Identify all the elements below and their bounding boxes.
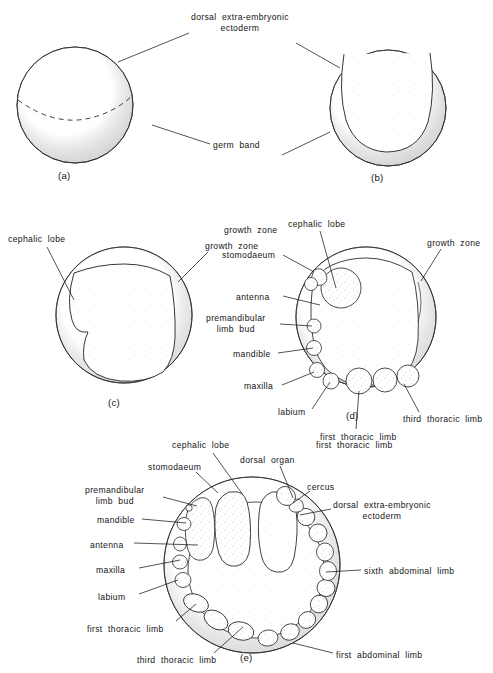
label-line: first thoracic limb bbox=[87, 624, 164, 635]
cephalic-lobe-e bbox=[215, 492, 251, 567]
leader-panel-d-stomodaeum bbox=[283, 255, 314, 272]
label-panel-e-third-thoracic-limb: third thoracic limb bbox=[137, 655, 216, 666]
label-line: antenna bbox=[90, 540, 124, 551]
first-thoracic-limb-d bbox=[346, 368, 372, 394]
seventh-abdominal-limb-e bbox=[317, 543, 334, 561]
label-line: growth zone bbox=[224, 225, 277, 236]
label-line: maxilla bbox=[96, 565, 125, 576]
mandible-d bbox=[307, 341, 322, 356]
label-line: growth zone bbox=[427, 238, 480, 249]
label-line: labium bbox=[278, 407, 305, 418]
panel-a-drawing bbox=[17, 47, 133, 163]
label-line: maxilla bbox=[244, 381, 273, 392]
label-panel-d-growth-zone: growth zone bbox=[427, 238, 480, 249]
label-line: limb bud bbox=[85, 496, 145, 507]
leader-panel-b-dorsal-extra-embryonic-ectoderm-leader-b bbox=[296, 43, 340, 68]
leader-panel-b-germ-band-leader-b bbox=[282, 132, 330, 155]
cephalic-lobe-d bbox=[321, 268, 361, 308]
label-panel-d-labium: labium bbox=[278, 407, 305, 418]
label-line: first abdominal limb bbox=[336, 650, 423, 661]
panel-b-drawing bbox=[330, 50, 446, 166]
label-panel-d-premandibular-limb-bud: premandibularlimb bud bbox=[206, 313, 266, 334]
label-line: premandibular bbox=[85, 485, 145, 496]
label-line: cephalic lobe bbox=[288, 219, 345, 230]
label-line: dorsal organ bbox=[240, 455, 295, 466]
label-line: germ band bbox=[213, 140, 260, 151]
label-line: first thoracic limb bbox=[316, 440, 393, 451]
label-panel-d-antenna: antenna bbox=[236, 292, 270, 303]
label-line: ectoderm bbox=[333, 511, 431, 522]
label-line: mandible bbox=[97, 515, 135, 526]
leader-panel-a-germ-band bbox=[152, 125, 210, 144]
label-panel-d-cephalic-lobe: cephalic lobe bbox=[288, 219, 345, 230]
label-line: premandibular bbox=[206, 313, 266, 324]
leader-panel-e-first-abdominal-limb bbox=[293, 643, 333, 653]
label-panel-e-first-thoracic-limb: first thoracic limb bbox=[87, 624, 164, 635]
panel-id-b: (b) bbox=[371, 172, 383, 183]
label-line: third thoracic limb bbox=[137, 655, 216, 666]
premandibular-limb-bud-e bbox=[186, 505, 192, 511]
label-line: ectoderm bbox=[191, 23, 289, 34]
label-panel-e-cercus: cercus bbox=[307, 482, 334, 493]
panel-id-c: (c) bbox=[108, 397, 120, 408]
label-panel-d-mandible: mandible bbox=[233, 349, 271, 360]
panel-d-drawing bbox=[296, 247, 436, 394]
label-line: cercus bbox=[307, 482, 334, 493]
label-panel-d-stomodaeum: stomodaeum bbox=[222, 250, 275, 261]
label-panel-d-growth-zone-left: growth zone bbox=[224, 225, 277, 236]
label-panel-e-stomodaeum: stomodaeum bbox=[148, 462, 201, 473]
label-panel-d-maxilla: maxilla bbox=[244, 381, 273, 392]
label-panel-e-dorsal-extra-embryonic-ectoderm: dorsal extra-embryonicectoderm bbox=[333, 500, 431, 521]
label-line: third thoracic limb bbox=[403, 414, 482, 425]
label-panel-e-sixth-abdominal-limb: sixth abdominal limb bbox=[364, 566, 454, 577]
leader-panel-d-growth-zone bbox=[421, 249, 441, 281]
label-panel-c-cephalic-lobe: cephalic lobe bbox=[8, 234, 65, 245]
label-line: stomodaeum bbox=[148, 462, 201, 473]
label-panel-e-first-thoracic-limb-top: first thoracic limb bbox=[316, 440, 393, 451]
label-line: dorsal extra-embryonic bbox=[191, 12, 289, 23]
panel-e-drawing bbox=[164, 477, 340, 653]
label-panel-e-dorsal-organ: dorsal organ bbox=[240, 455, 295, 466]
segment-bud-d-1 bbox=[305, 278, 318, 291]
labium-d bbox=[323, 373, 339, 389]
label-panel-e-mandible: mandible bbox=[97, 515, 135, 526]
leader-panel-d-maxilla bbox=[282, 372, 314, 385]
leader-panel-c-growth-zone bbox=[178, 252, 208, 282]
third-thoracic-limb-d bbox=[397, 365, 419, 387]
label-panel-e-first-abdominal-limb: first abdominal limb bbox=[336, 650, 423, 661]
sixth-abdominal-limb-e bbox=[320, 562, 337, 581]
label-panel-e-antenna: antenna bbox=[90, 540, 124, 551]
label-panel-e-maxilla: maxilla bbox=[96, 565, 125, 576]
panel-id-d: (d) bbox=[346, 410, 358, 421]
panel-c-drawing bbox=[56, 247, 192, 383]
second-thoracic-limb-d bbox=[373, 368, 397, 392]
label-line: limb bud bbox=[206, 324, 266, 335]
germ-band-region-b bbox=[341, 53, 432, 152]
label-panel-e-premandibular-limb-bud: premandibularlimb bud bbox=[85, 485, 145, 506]
label-line: cephalic lobe bbox=[8, 234, 65, 245]
label-panel-d-third-thoracic-limb: third thoracic limb bbox=[403, 414, 482, 425]
label-line: cephalic lobe bbox=[172, 440, 229, 451]
leader-panel-d-labium bbox=[312, 382, 330, 409]
maxilla-d bbox=[310, 363, 325, 378]
label-line: antenna bbox=[236, 292, 270, 303]
label-panel-a-dorsal-extra-embryonic-ectoderm: dorsal extra-embryonicectoderm bbox=[191, 12, 289, 33]
mandible-e bbox=[177, 518, 191, 531]
label-line: labium bbox=[98, 592, 125, 603]
label-line: sixth abdominal limb bbox=[364, 566, 454, 577]
label-line: dorsal extra-embryonic bbox=[333, 500, 431, 511]
label-line: stomodaeum bbox=[222, 250, 275, 261]
leader-panel-a-dorsal-extra-embryonic-ectoderm bbox=[118, 33, 189, 62]
panel-id-a: (a) bbox=[58, 170, 70, 181]
label-line: mandible bbox=[233, 349, 271, 360]
label-panel-e-cephalic-lobe: cephalic lobe bbox=[172, 440, 229, 451]
panel-id-e: (e) bbox=[240, 652, 252, 663]
leader-panel-d-third-thoracic-limb bbox=[404, 384, 419, 412]
maxilla-e bbox=[173, 555, 188, 569]
label-panel-e-labium: labium bbox=[98, 592, 125, 603]
label-panel-a-germ-band: germ band bbox=[213, 140, 260, 151]
